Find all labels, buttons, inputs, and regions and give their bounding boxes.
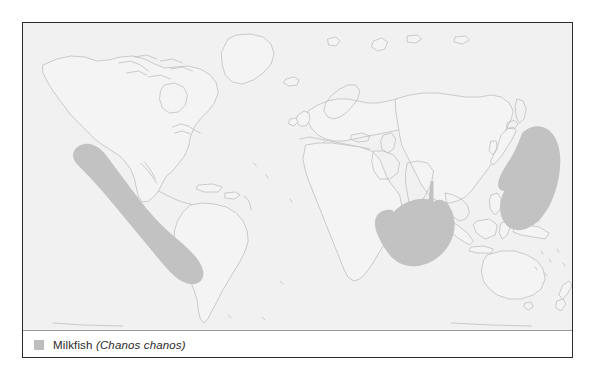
hispaniola-outline: [225, 192, 240, 199]
new-zealand-outline: [559, 281, 572, 299]
iceland-outline: [284, 77, 299, 86]
borneo-outline: [473, 219, 497, 239]
greenland-outline: [221, 34, 274, 84]
novaya-zemlya-outline: [372, 38, 388, 51]
map-legend: Milkfish (Chanos chanos): [23, 331, 572, 358]
tasmania-outline: [524, 302, 533, 310]
svalbard-outline: [328, 37, 340, 46]
map-area: [23, 23, 572, 330]
southern-ocean-hint: [53, 323, 531, 326]
distribution-range-swatch: [34, 340, 44, 350]
legend-scientific-name: (Chanos chanos): [96, 339, 186, 351]
ireland-outline: [289, 118, 298, 126]
legend-label: Milkfish (Chanos chanos): [53, 339, 186, 351]
world-map-svg: [23, 23, 572, 330]
north-america-outline: [43, 56, 218, 202]
australia-outline: [481, 251, 545, 299]
cuba-outline: [196, 184, 222, 192]
legend-common-name: Milkfish: [53, 339, 93, 351]
map-frame: Milkfish (Chanos chanos): [22, 22, 573, 358]
lesser-antilles-outline: [244, 196, 251, 210]
caspian-sea-outline: [381, 133, 396, 153]
new-zealand-south-outline: [556, 299, 566, 311]
british-isles-outline: [296, 111, 310, 126]
severnaya-zemlya-outline: [408, 35, 422, 43]
kamchatka-outline: [515, 99, 526, 123]
java-outline: [469, 246, 493, 253]
new-siberian-islands-outline: [454, 36, 469, 44]
asia-outline: [396, 93, 514, 203]
figure-container: Milkfish (Chanos chanos): [0, 0, 595, 382]
philippines-outline: [489, 193, 501, 215]
